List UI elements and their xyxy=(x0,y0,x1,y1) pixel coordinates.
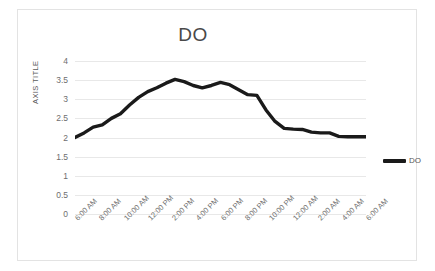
x-axis-tick-label: 6:00 AM xyxy=(364,197,390,223)
y-axis-tick-label: 0 xyxy=(63,209,68,219)
y-axis-tick-label: 1 xyxy=(63,171,68,181)
x-axis-tick-labels: 6:00 AM8:00 AM10:00 AM12:00 PM2:00 PM4:0… xyxy=(75,216,366,271)
chart-title: DO xyxy=(18,24,368,46)
data-line-series xyxy=(75,61,366,214)
chart-container: DO AXIS TITLE 00.511.522.533.54 6:00 AM8… xyxy=(17,9,417,261)
y-axis-tick-labels: 00.511.522.533.54 xyxy=(36,61,72,214)
series-line-do xyxy=(75,79,366,137)
legend-line-swatch xyxy=(383,159,406,163)
y-axis-tick-label: 3 xyxy=(63,94,68,104)
legend-entry-label: DO xyxy=(409,156,421,165)
y-axis-tick-label: 2.5 xyxy=(56,113,68,123)
y-axis-tick-label: 4 xyxy=(63,56,68,66)
chart-legend: DO xyxy=(383,156,421,165)
y-axis-tick-label: 3.5 xyxy=(56,75,68,85)
plot-area xyxy=(75,61,366,214)
y-axis-tick-label: 1.5 xyxy=(56,152,68,162)
y-axis-tick-label: 2 xyxy=(63,133,68,143)
y-axis-tick-label: 0.5 xyxy=(56,190,68,200)
